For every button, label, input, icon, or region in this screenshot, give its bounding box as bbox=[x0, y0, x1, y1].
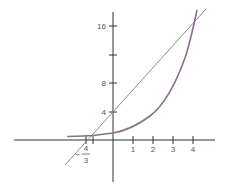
graph: 1 2 3 4 4 8 16 − 4 3 bbox=[0, 0, 225, 189]
x-tick-label-4: 4 bbox=[191, 145, 196, 154]
fraction-denominator: 3 bbox=[84, 156, 89, 165]
fraction-sign: − bbox=[75, 150, 80, 159]
x-tick-label-3: 3 bbox=[171, 145, 176, 154]
x-tick-label-1: 1 bbox=[131, 145, 136, 154]
x-tick-label-2: 2 bbox=[151, 145, 156, 154]
y-tick-label-8: 8 bbox=[102, 79, 107, 88]
y-tick-label-4: 4 bbox=[102, 108, 107, 117]
exponential-curve bbox=[67, 10, 197, 137]
line-3x-plus-4 bbox=[65, 9, 206, 165]
y-tick-label-16: 16 bbox=[97, 22, 106, 31]
fraction-numerator: 4 bbox=[84, 144, 89, 153]
